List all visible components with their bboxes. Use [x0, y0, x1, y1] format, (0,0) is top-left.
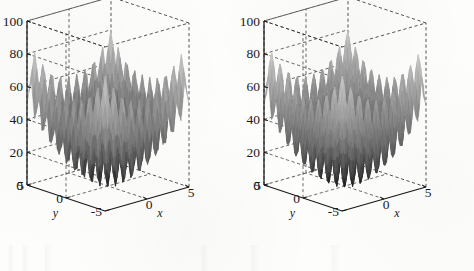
svg-text:20: 20: [247, 145, 261, 160]
svg-text:0: 0: [56, 191, 63, 206]
svg-text:-5: -5: [91, 204, 102, 219]
svg-text:60: 60: [10, 79, 24, 94]
svg-text:5: 5: [425, 185, 432, 200]
svg-text:60: 60: [247, 79, 261, 94]
figure-canvas: 020406080100-50505zyx 020406080100-50505…: [0, 0, 474, 271]
svg-text:z: z: [0, 102, 2, 108]
svg-text:y: y: [52, 206, 59, 220]
svg-text:0: 0: [383, 197, 390, 212]
svg-text:100: 100: [3, 14, 24, 29]
svg-text:80: 80: [247, 46, 261, 61]
svg-text:z: z: [237, 102, 239, 108]
surface-plot-left: 020406080100-50505zyx: [0, 0, 237, 271]
svg-text:x: x: [156, 206, 163, 220]
svg-text:40: 40: [247, 112, 261, 127]
svg-text:y: y: [289, 206, 296, 220]
svg-text:100: 100: [240, 14, 261, 29]
svg-text:5: 5: [17, 178, 24, 193]
svg-text:-5: -5: [328, 204, 339, 219]
svg-text:0: 0: [146, 197, 153, 212]
svg-text:80: 80: [10, 46, 24, 61]
surface-plot-right: 020406080100-50505zyx: [237, 0, 474, 271]
svg-text:20: 20: [10, 145, 24, 160]
svg-text:x: x: [393, 206, 400, 220]
svg-text:40: 40: [10, 112, 24, 127]
svg-text:5: 5: [188, 185, 195, 200]
svg-text:0: 0: [293, 191, 300, 206]
svg-text:5: 5: [254, 178, 261, 193]
